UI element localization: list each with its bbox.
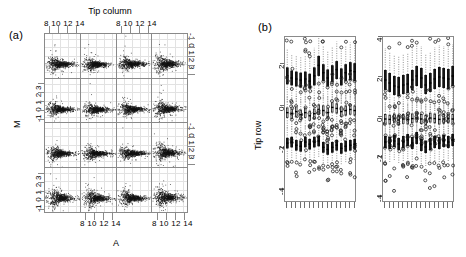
x-tick-mark (407, 202, 408, 208)
lattice-cell (152, 123, 187, 168)
lattice-cell (81, 168, 117, 213)
panel-b-tag: (b) (258, 21, 272, 33)
tick-mark (188, 38, 195, 39)
lattice-cell (152, 168, 187, 213)
lattice-row (45, 123, 187, 168)
tick-mark (67, 26, 68, 33)
panel-a-top-tickmarks-col1 (44, 26, 80, 33)
lattice-cell (81, 34, 117, 79)
x-tick-mark (327, 202, 328, 208)
tick-mark (157, 213, 158, 220)
x-tick-mark (429, 202, 430, 208)
panel-a-right-tickmarks-row3 (188, 123, 195, 168)
lattice-row (45, 168, 187, 213)
y-tick-label: -4 (375, 194, 384, 202)
lattice-row (45, 34, 187, 79)
tick-mark (188, 74, 195, 75)
panel-a-y-axis-label: M (12, 121, 22, 129)
x-tick-mark (349, 202, 350, 208)
y-tick-label: 2 (277, 65, 286, 70)
lattice-cell (81, 123, 117, 168)
x-tick-mark (402, 202, 403, 208)
x-tick-mark (443, 202, 444, 208)
tick-mark (148, 26, 149, 33)
tick-mark (184, 213, 185, 220)
x-tick-mark (331, 202, 332, 208)
x-tick-mark (438, 202, 439, 208)
x-tick-mark (286, 202, 287, 208)
y-tick-label: 0 (277, 107, 286, 112)
tick-mark (94, 213, 95, 220)
tick-mark (58, 26, 59, 33)
y-tick-label: -2 (277, 146, 286, 154)
lattice-cell (45, 123, 81, 168)
lattice-cell (152, 34, 187, 79)
tick-mark (188, 65, 195, 66)
tick-mark (188, 164, 195, 165)
tick-mark (103, 213, 104, 220)
lattice-cell (45, 168, 81, 213)
tick-mark (188, 146, 195, 147)
tick-mark (130, 26, 131, 33)
x-tick-mark (411, 202, 412, 208)
tick-mark (121, 26, 122, 33)
x-tick-mark (420, 202, 421, 208)
x-tick-mark (291, 202, 292, 208)
x-tick-mark (447, 202, 448, 208)
tick-mark (85, 213, 86, 220)
y-tick-label: -4 (277, 188, 286, 196)
panel-a-x-axis-label: A (113, 238, 119, 248)
panel-a-tag: (a) (9, 29, 23, 41)
x-tick-mark (336, 202, 337, 208)
lattice-cell (117, 168, 153, 213)
lattice-cell (45, 79, 81, 124)
x-tick-mark (304, 202, 305, 208)
tick-mark (139, 26, 140, 33)
x-tick-mark (452, 202, 453, 208)
panel-a-right-tickmarks-row1 (188, 33, 195, 78)
tick-mark (188, 128, 195, 129)
x-tick-mark (340, 202, 341, 208)
lattice-cell (117, 79, 153, 124)
x-tick-mark (322, 202, 323, 208)
x-tick-mark (300, 202, 301, 208)
x-tick-mark (434, 202, 435, 208)
tick-mark (76, 26, 77, 33)
x-tick-mark (389, 202, 390, 208)
x-tick-mark (345, 202, 346, 208)
lattice-cell (81, 79, 117, 124)
tick-mark (188, 47, 195, 48)
panel-b-y-axis-label: Tip row (253, 121, 263, 150)
panel-a-lattice (44, 33, 188, 213)
x-tick-mark (295, 202, 296, 208)
panel-a-bottom-tickmarks-col4 (152, 213, 188, 220)
tick-mark (188, 56, 195, 57)
tip-column-strip-title: Tip column (88, 6, 132, 16)
lattice-cell (117, 123, 153, 168)
x-tick-mark (398, 202, 399, 208)
tick-mark (166, 213, 167, 220)
tick-mark (188, 155, 195, 156)
x-tick-mark (309, 202, 310, 208)
y-tick-label: -2 (375, 154, 384, 162)
x-tick-mark (313, 202, 314, 208)
lattice-cell (45, 34, 81, 79)
tick-mark (112, 213, 113, 220)
panel-b-right-boxplot (382, 36, 454, 202)
tick-mark (175, 213, 176, 220)
x-tick-mark (318, 202, 319, 208)
x-tick-mark (384, 202, 385, 208)
panel-a-top-tickmarks-col3 (116, 26, 152, 33)
y-tick-label: 2 (375, 77, 384, 82)
panel-a-bottom-tickmarks-col2 (80, 213, 116, 220)
lattice-cell (152, 79, 187, 124)
panel-b-left-boxplot (284, 36, 356, 202)
lattice-cell (117, 34, 153, 79)
lattice-row (45, 79, 187, 124)
y-tick-label: 0 (375, 117, 384, 122)
tick-mark (49, 26, 50, 33)
x-tick-mark (425, 202, 426, 208)
tick-mark (188, 137, 195, 138)
x-tick-mark (393, 202, 394, 208)
x-tick-mark (416, 202, 417, 208)
